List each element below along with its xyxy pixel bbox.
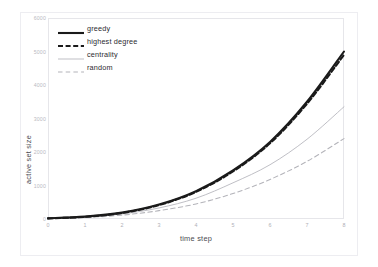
legend-key-icon <box>58 37 84 47</box>
legend-key-icon <box>58 24 84 34</box>
y-axis-tick-labels: 0100020003000400050006000 <box>26 18 46 219</box>
legend-item-greedy: greedy <box>58 22 178 35</box>
x-tick-label: 8 <box>343 222 346 228</box>
x-axis-tick-labels: 012345678 <box>48 222 344 234</box>
cropped-caption-fragment <box>196 0 378 9</box>
legend-label: highest degree <box>87 37 137 46</box>
x-tick-label: 7 <box>306 222 309 228</box>
x-tick-label: 0 <box>47 222 50 228</box>
y-tick-label: 4000 <box>34 82 46 88</box>
legend-key-icon <box>58 50 84 60</box>
x-tick-label: 2 <box>121 222 124 228</box>
chart-screenshot: active set size 010002000300040005000600… <box>0 0 378 267</box>
x-tick-label: 6 <box>269 222 272 228</box>
series-line-highest-degree <box>48 55 344 219</box>
x-axis-title: time step <box>48 234 344 243</box>
y-tick-label: 6000 <box>34 15 46 21</box>
series-line-greedy <box>48 52 344 219</box>
y-tick-label: 2000 <box>34 149 46 155</box>
series-line-centrality <box>48 107 344 219</box>
x-tick-label: 4 <box>195 222 198 228</box>
y-tick-label: 3000 <box>34 116 46 122</box>
legend-item-highest-degree: highest degree <box>58 35 178 48</box>
legend-item-centrality: centrality <box>58 48 178 61</box>
y-tick-label: 5000 <box>34 49 46 55</box>
legend-item-random: random <box>58 61 178 74</box>
x-tick-label: 3 <box>158 222 161 228</box>
y-tick-label: 1000 <box>34 183 46 189</box>
x-tick-label: 5 <box>232 222 235 228</box>
series-line-random <box>48 139 344 219</box>
legend-label: random <box>87 63 113 72</box>
legend-key-icon <box>58 63 84 73</box>
legend-label: greedy <box>87 24 110 33</box>
x-tick-label: 1 <box>84 222 87 228</box>
legend-label: centrality <box>87 50 118 59</box>
chart-legend: greedyhighest degreecentralityrandom <box>58 22 178 74</box>
